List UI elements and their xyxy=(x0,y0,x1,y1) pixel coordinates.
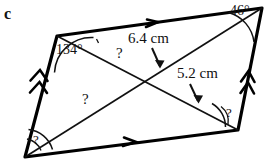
length-label-diagonal-lower: 5.2 cm xyxy=(177,66,218,81)
parallelogram-diagram xyxy=(0,0,270,168)
unknown-label-bottom-left: ? xyxy=(33,133,39,146)
unknown-label-top: ? xyxy=(116,46,123,61)
length-label-diagonal-upper: 6.4 cm xyxy=(128,31,169,46)
unknown-label-bottom-right: ? xyxy=(226,106,232,119)
unknown-label-middle: ? xyxy=(82,92,89,107)
geometry-figure: c 134° 46° 6.4 cm 5.2 cm ? ? ? ? xyxy=(0,0,270,168)
angle-label-top-left: 134° xyxy=(56,43,83,57)
part-letter-label: c xyxy=(4,6,11,22)
angle-label-top-right: 46° xyxy=(230,4,250,18)
